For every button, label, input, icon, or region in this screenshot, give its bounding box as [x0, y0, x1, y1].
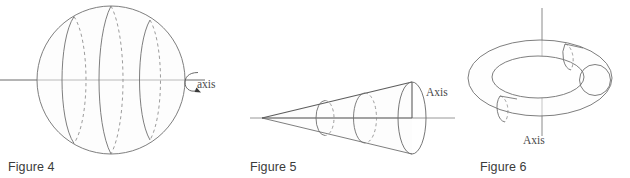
sphere-diagram — [0, 0, 230, 178]
figure-4: axis Figure 4 — [0, 0, 230, 178]
caption-figure-5: Figure 5 — [250, 160, 297, 174]
figure-sheet: axis Figure 4 Axis — [0, 0, 630, 178]
caption-figure-6: Figure 6 — [480, 160, 527, 174]
figure-6: Axis Figure 6 — [455, 0, 630, 178]
torus-diagram — [455, 0, 630, 178]
axis-label-figure-6: Axis — [523, 134, 545, 146]
sphere-outline — [37, 6, 185, 154]
cone-diagram — [230, 0, 455, 178]
caption-figure-4: Figure 4 — [8, 160, 55, 174]
figure-5: Axis Figure 5 — [230, 0, 455, 178]
torus-inner-ellipse — [492, 56, 584, 98]
axis-label-figure-5: Axis — [426, 86, 448, 98]
axis-label-figure-4: axis — [197, 78, 216, 90]
